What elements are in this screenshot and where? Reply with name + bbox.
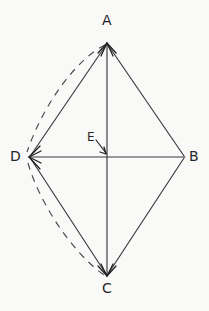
vertex-label-d: D <box>10 149 21 163</box>
vertex-label-e: E <box>87 131 95 143</box>
vector-diagram-figure: A B C D E <box>0 0 209 311</box>
edge-c-d <box>31 159 106 274</box>
vertex-label-b: B <box>189 149 199 163</box>
dashed-arc-d-c <box>28 163 104 275</box>
edge-b-c <box>108 158 184 274</box>
vertex-label-c: C <box>102 281 112 295</box>
pointer-arrow-e <box>96 140 106 154</box>
edge-a-b <box>108 45 184 156</box>
diagram-canvas <box>0 0 209 311</box>
vertex-label-a: A <box>102 13 112 27</box>
